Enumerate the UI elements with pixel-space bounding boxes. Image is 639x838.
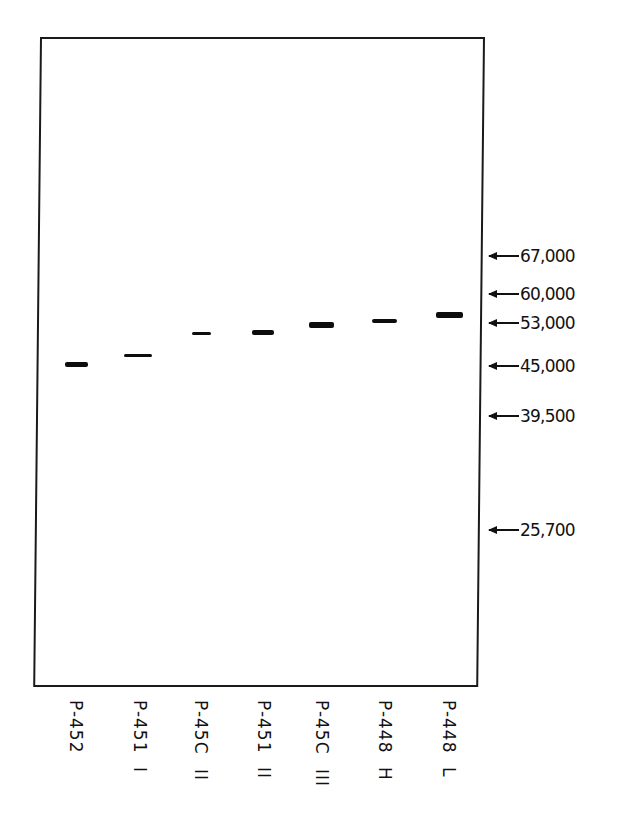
marker-row: 67,000 [489, 246, 575, 266]
arrow-left-icon [489, 415, 519, 417]
lane-sample-id: P-452 [66, 700, 86, 753]
lane-sample-suffix: II [191, 769, 211, 781]
marker-label: 25,700 [520, 520, 575, 540]
lane-sample-id: P-451 [130, 700, 150, 753]
protein-band [65, 362, 88, 367]
marker-label: 39,500 [520, 406, 575, 426]
protein-band [309, 322, 334, 328]
arrow-left-icon [489, 322, 519, 324]
lane-sample-suffix: III [312, 769, 332, 787]
protein-band [192, 332, 211, 335]
lane-sample-id: P-448 [439, 700, 459, 753]
arrow-left-icon [489, 529, 519, 531]
lane-sample-suffix: L [439, 767, 459, 777]
protein-band [372, 319, 397, 323]
arrow-left-icon [489, 255, 519, 257]
marker-row: 60,000 [489, 284, 575, 304]
lane-sample-id: P-45C [312, 700, 332, 755]
marker-label: 60,000 [520, 284, 575, 304]
marker-label: 53,000 [520, 313, 575, 333]
marker-row: 25,700 [489, 520, 575, 540]
lane-sample-suffix: H [375, 767, 395, 781]
lane-sample-suffix: II [254, 767, 274, 779]
arrow-left-icon [489, 365, 519, 367]
lane-sample-id: P-448 [375, 700, 395, 753]
lane-label: P-448L [439, 700, 459, 778]
marker-label: 67,000 [520, 246, 575, 266]
lane-label: P-45CII [191, 700, 211, 781]
marker-label: 45,000 [520, 356, 575, 376]
lane-sample-id: P-45C [191, 700, 211, 755]
protein-band [252, 330, 274, 335]
lane-label: P-451I [130, 700, 150, 773]
gel-figure: 67,00060,00053,00045,00039,50025,700 P-4… [0, 0, 639, 838]
lane-label: P-448H [375, 700, 395, 781]
lane-sample-suffix: I [130, 767, 150, 773]
lane-label: P-452 [66, 700, 86, 767]
marker-row: 45,000 [489, 356, 575, 376]
marker-row: 39,500 [489, 406, 575, 426]
protein-band [436, 312, 463, 318]
lane-label: P-451II [254, 700, 274, 780]
gel-frame [33, 37, 485, 687]
protein-band [124, 354, 152, 357]
marker-row: 53,000 [489, 313, 575, 333]
arrow-left-icon [489, 293, 519, 295]
lane-sample-id: P-451 [254, 700, 274, 753]
lane-label: P-45CIII [312, 700, 332, 787]
